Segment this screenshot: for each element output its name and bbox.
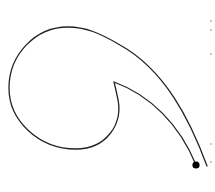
- edge-mark: [210, 29, 212, 31]
- end-point-dot: [192, 161, 199, 168]
- diagram-canvas: [0, 0, 215, 192]
- edge-mark: [210, 53, 212, 55]
- curve-diagram: [0, 0, 215, 192]
- comma-curve-path: [9, 27, 207, 166]
- edge-mark: [210, 143, 212, 145]
- edge-mark: [210, 161, 212, 163]
- edge-mark: [210, 20, 212, 22]
